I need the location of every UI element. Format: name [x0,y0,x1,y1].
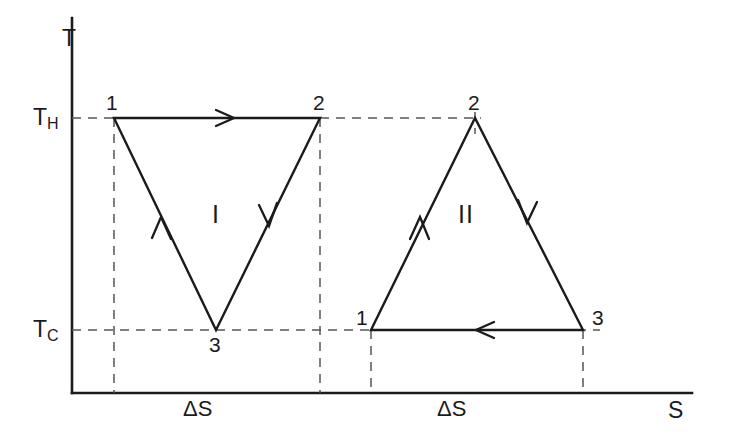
thermodynamic-cycle-svg [0,0,731,445]
temperature-cold-label: TC [33,318,59,344]
cycle-ii-name-label: II [458,202,474,227]
cycle-ii-vertex-1-label: 1 [356,307,368,328]
temperature-hot-symbol: T [33,104,47,130]
temperature-cold-symbol: T [33,316,47,342]
cycle-i-arrow-2-to-3 [259,203,277,226]
temperature-hot-label: TH [33,106,59,132]
cycle-ii-path [371,118,583,338]
temperature-hot-subscript: H [47,115,59,132]
cycle-i-vertex-3-label: 3 [209,334,221,355]
guide-lines-group [72,112,600,393]
figure-canvas: T S TH TC 1 2 3 1 2 3 I II ΔS ΔS [0,0,731,445]
cycle-i-vertex-2-label: 2 [313,92,325,113]
cycle-ii-arrow-2-to-3 [518,200,537,223]
y-axis-label: T [62,27,76,50]
cycle-i-name-label: I [212,202,220,227]
cycle-i-vertex-1-label: 1 [106,92,118,113]
x-axis-label: S [668,399,683,422]
cycle-ii-vertex-3-label: 3 [592,307,604,328]
temperature-cold-subscript: C [47,327,59,344]
axes-group [72,18,692,393]
entropy-span-label-i: ΔS [183,398,212,420]
cycle-ii-vertex-2-label: 2 [468,92,480,113]
entropy-span-label-ii: ΔS [437,398,466,420]
cycle-ii-triangle [371,118,583,330]
